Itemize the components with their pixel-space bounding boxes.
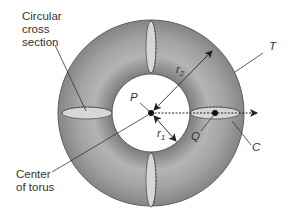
label-c: C (252, 141, 260, 154)
cross-section-top (146, 21, 156, 73)
p-leader (140, 103, 149, 111)
cross-section-bottom (146, 153, 156, 207)
label-t: T (269, 40, 276, 53)
point-p (148, 110, 154, 116)
cross-section-label: Circular cross section (22, 10, 62, 49)
label-q: Q (191, 130, 200, 143)
cross-section-left (62, 107, 112, 119)
label-p: P (130, 91, 138, 104)
label-r2: r2 (176, 63, 184, 77)
t-leader (235, 53, 263, 72)
center-of-torus-label: Center of torus (16, 168, 54, 194)
point-q (212, 110, 218, 116)
label-r1: r1 (157, 127, 165, 141)
